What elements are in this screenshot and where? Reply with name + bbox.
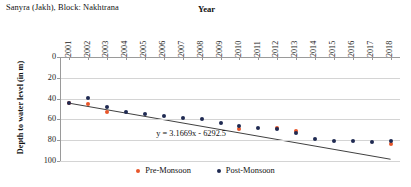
legend-marker-icon [217, 169, 221, 173]
gridline [60, 119, 400, 120]
data-point-post [143, 112, 147, 116]
x-axis-tick-label: 2008 [197, 41, 205, 57]
x-axis-tick-mark [202, 57, 203, 60]
data-point-pre [105, 110, 109, 114]
y-axis-tick-labels: 020406080100 [32, 57, 56, 161]
data-point-post [105, 105, 109, 109]
data-point-post [370, 140, 374, 144]
x-axis-tick-label: 2011 [254, 41, 262, 57]
x-axis-tick-mark [353, 57, 354, 60]
data-point-post [86, 96, 90, 100]
x-axis-tick-mark [126, 57, 127, 60]
data-point-post [275, 127, 279, 131]
x-axis-tick-label: 2003 [102, 41, 110, 57]
x-axis-tick-label: 2006 [159, 41, 167, 57]
x-axis-title: Year [198, 4, 215, 14]
x-axis-tick-label: 2013 [291, 41, 299, 57]
x-axis-tick-label: 2001 [65, 41, 73, 57]
chart-container: Sanyra (Jakh), Block: Nakhtrana Year Dep… [0, 0, 411, 187]
y-axis-tick-mark [57, 140, 60, 141]
x-axis-tick-mark [296, 57, 297, 60]
x-axis-tick-label: 2012 [272, 41, 280, 57]
trendline-svg [60, 57, 400, 161]
x-axis-tick-mark [221, 57, 222, 60]
x-axis-tick-mark [164, 57, 165, 60]
x-axis-tick-label: 2009 [216, 41, 224, 57]
data-point-post [124, 110, 128, 114]
trendline-equation-label: y = 3.1669x - 6292.5 [156, 129, 226, 138]
legend-marker-icon [136, 169, 140, 173]
data-point-post [237, 124, 241, 128]
y-axis-tick-label: 0 [34, 53, 56, 61]
x-axis-tick-mark [258, 57, 259, 60]
x-axis-line [60, 57, 400, 58]
y-axis-tick-label: 40 [34, 95, 56, 103]
y-axis-line [60, 57, 61, 161]
data-point-post [294, 131, 298, 135]
y-axis-tick-mark [57, 78, 60, 79]
x-axis-tick-mark [145, 57, 146, 60]
y-axis-tick-label: 80 [34, 136, 56, 144]
y-axis-tick-mark [57, 119, 60, 120]
legend-item[interactable]: Pre-Monsoon [136, 166, 191, 175]
plot-area: y = 3.1669x - 6292.5 [60, 57, 400, 161]
y-axis-tick-label: 100 [34, 157, 56, 165]
x-axis-tick-label: 2018 [386, 41, 394, 57]
data-point-pre [86, 102, 90, 106]
x-axis-tick-mark [107, 57, 108, 60]
x-axis-tick-mark [372, 57, 373, 60]
x-axis-tick-label: 2005 [140, 41, 148, 57]
trendline [69, 103, 390, 159]
data-point-post [351, 139, 355, 143]
y-axis-tick-mark [57, 99, 60, 100]
chart-legend: Pre-MonsoonPost-Monsoon [0, 166, 411, 175]
y-axis-tick-label: 60 [34, 115, 56, 123]
x-axis-tick-labels: 2001200220032004200520062007200820092010… [60, 16, 400, 57]
data-point-post [256, 126, 260, 130]
gridline [60, 140, 400, 141]
x-axis-tick-mark [334, 57, 335, 60]
legend-label: Post-Monsoon [226, 166, 275, 175]
gridline [60, 78, 400, 79]
data-point-post [181, 116, 185, 120]
legend-label: Pre-Monsoon [145, 166, 191, 175]
y-axis-tick-mark [57, 57, 60, 58]
data-point-post [332, 139, 336, 143]
legend-item[interactable]: Post-Monsoon [217, 166, 275, 175]
data-point-post [67, 101, 71, 105]
x-axis-tick-mark [69, 57, 70, 60]
x-axis-tick-mark [277, 57, 278, 60]
gridline [60, 99, 400, 100]
data-point-post [162, 114, 166, 118]
x-axis-tick-label: 2004 [121, 41, 129, 57]
x-axis-tick-label: 2014 [310, 41, 318, 57]
x-axis-tick-mark [183, 57, 184, 60]
x-axis-tick-mark [315, 57, 316, 60]
chart-title: Sanyra (Jakh), Block: Nakhtrana [6, 3, 119, 12]
y-axis-tick-mark [57, 161, 60, 162]
data-point-post [219, 121, 223, 125]
y-axis-tick-label: 20 [34, 74, 56, 82]
x-axis-tick-mark [391, 57, 392, 60]
x-axis-tick-label: 2016 [348, 41, 356, 57]
x-axis-tick-mark [88, 57, 89, 60]
data-point-post [389, 139, 393, 143]
x-axis-tick-label: 2017 [367, 41, 375, 57]
y-axis-title: Depth to water level (in m) [16, 49, 25, 167]
x-axis-tick-label: 2002 [84, 41, 92, 57]
gridline [60, 161, 400, 162]
data-point-post [313, 137, 317, 141]
x-axis-tick-mark [239, 57, 240, 60]
x-axis-tick-label: 2015 [329, 41, 337, 57]
x-axis-tick-label: 2010 [235, 41, 243, 57]
data-point-post [200, 117, 204, 121]
x-axis-tick-label: 2007 [178, 41, 186, 57]
